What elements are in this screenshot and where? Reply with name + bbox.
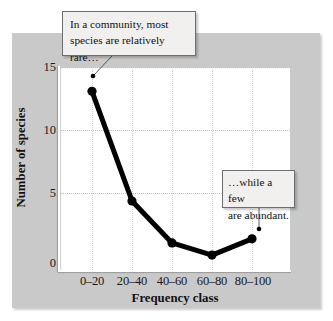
gridline-x-20-40 [132, 67, 133, 270]
y-axis-line [58, 66, 60, 272]
callout-abundant-line2: are abundant. [228, 207, 290, 223]
y-tick-15: 15 [30, 61, 56, 74]
gridline-y-10 [60, 130, 290, 131]
callout-rare: In a community, most species are relativ… [62, 11, 196, 56]
y-tick-5: 5 [30, 187, 56, 200]
y-tick-10: 10 [30, 124, 56, 137]
x-axis-line [58, 270, 291, 272]
gridline-x-60-80 [212, 67, 213, 270]
callout-rare-line1: In a community, most [70, 16, 189, 32]
plot-area [60, 67, 290, 270]
y-axis-title: Number of species [14, 93, 29, 223]
callout-abundant-line1: …while a few [228, 174, 290, 207]
callout-abundant: …while a few are abundant. [222, 170, 295, 208]
gridline-x-40-60 [172, 67, 173, 270]
callout-rare-line2: species are relatively rare… [70, 32, 189, 65]
y-tick-0: 0 [30, 257, 56, 270]
x-tick-80-100: 80–100 [225, 274, 281, 289]
gridline-y-15 [60, 67, 290, 68]
x-axis-title: Frequency class [60, 291, 290, 306]
gridline-x-80-100 [252, 67, 253, 270]
figure-root: 15 10 5 0 0–20 20–40 40–60 60–80 80–100 … [0, 0, 333, 321]
gridline-x-0-20 [92, 67, 93, 270]
